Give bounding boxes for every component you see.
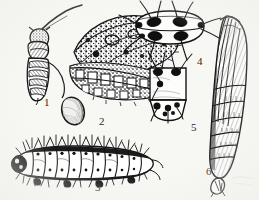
figure-label-1: 1 (44, 97, 50, 108)
figure-label-4: 4 (197, 56, 203, 67)
figure-label-3: 3 (95, 182, 101, 193)
illustration-plate: 1 2 3 4 5 6 (0, 0, 259, 200)
figure-label-6: 6 (206, 166, 212, 177)
figure-label-2: 2 (99, 116, 105, 127)
figure-label-5: 5 (191, 122, 197, 133)
larva-head (12, 156, 27, 173)
plate-artwork (0, 0, 259, 200)
moth-head-thorax (28, 27, 50, 60)
